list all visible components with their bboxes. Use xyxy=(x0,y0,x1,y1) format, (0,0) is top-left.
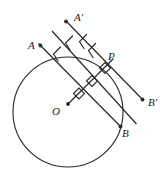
right-angle-mark-middle xyxy=(87,76,98,87)
geometry-canvas xyxy=(0,0,167,171)
label-A: A xyxy=(28,40,35,51)
label-B: B xyxy=(122,128,129,139)
dot-A-prime xyxy=(64,20,68,24)
dot-A xyxy=(39,44,43,48)
label-B-prime: B' xyxy=(148,97,157,108)
label-O: O xyxy=(52,106,60,117)
geometry-figure: A' A P B' O B xyxy=(0,0,167,171)
label-P: P xyxy=(108,51,115,62)
label-A-prime: A' xyxy=(74,12,83,23)
dot-center-O xyxy=(66,102,70,106)
dot-B-prime xyxy=(141,98,145,102)
